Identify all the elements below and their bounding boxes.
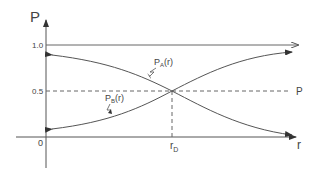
x-axis-label: r bbox=[297, 138, 301, 152]
origin-label: 0 bbox=[38, 138, 43, 148]
curve-pa-label: PA(r) bbox=[154, 57, 173, 68]
curve-pb-pointer-icon bbox=[107, 104, 111, 110]
y-axis-label: P bbox=[30, 8, 40, 25]
rd-label: rD bbox=[170, 140, 178, 153]
probability-diagram: P r 0 1.0 0.5 P rD PA(r) PB(r) bbox=[0, 0, 318, 177]
curve-pa-pointer-icon bbox=[150, 68, 156, 76]
curve-pb-label: PB(r) bbox=[105, 93, 124, 104]
y-tick-1.0: 1.0 bbox=[32, 41, 44, 50]
y-tick-0.5: 0.5 bbox=[32, 87, 44, 96]
half-line-label: P bbox=[296, 86, 303, 97]
